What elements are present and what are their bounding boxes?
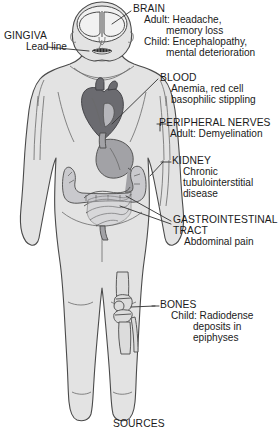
label-gingiva-line-0: Lead line bbox=[4, 41, 67, 52]
label-gastrointestinal-heading2: TRACT bbox=[173, 225, 278, 236]
label-brain-line-1: memory loss bbox=[133, 25, 255, 36]
label-kidney-heading: KIDNEY bbox=[172, 155, 253, 166]
sources-caption: SOURCES bbox=[113, 418, 165, 429]
label-bones-line-2: epiphyses bbox=[160, 332, 254, 343]
label-brain: BRAIN Adult: Headache, memory loss Child… bbox=[133, 3, 255, 58]
label-gingiva-heading: GINGIVA bbox=[4, 30, 67, 41]
label-brain-line-3: mental deterioration bbox=[133, 47, 255, 58]
label-kidney-line-2: disease bbox=[172, 188, 253, 199]
label-brain-line-0: Adult: Headache, bbox=[133, 14, 255, 25]
label-blood: BLOOD Anemia, red cell basophilic stippl… bbox=[160, 72, 256, 105]
label-gastrointestinal-line-0: Abdominal pain bbox=[173, 236, 278, 247]
label-peripheral-nerves: PERIPHERAL NERVES Adult: Demyelination bbox=[159, 117, 271, 139]
label-gastrointestinal: GASTROINTESTINAL TRACT Abdominal pain bbox=[173, 214, 278, 247]
label-bones: BONES Child: Radiodense deposits in epip… bbox=[160, 299, 254, 343]
label-peripheral-nerves-heading: PERIPHERAL NERVES bbox=[159, 117, 271, 128]
label-brain-heading: BRAIN bbox=[133, 3, 255, 14]
label-blood-line-1: basophilic stippling bbox=[160, 94, 256, 105]
label-bones-heading: BONES bbox=[160, 299, 254, 310]
label-gingiva: GINGIVA Lead line bbox=[4, 30, 67, 52]
label-blood-line-0: Anemia, red cell bbox=[160, 83, 256, 94]
label-blood-heading: BLOOD bbox=[160, 72, 256, 83]
label-gastrointestinal-heading: GASTROINTESTINAL bbox=[173, 214, 278, 225]
label-bones-line-1: deposits in bbox=[160, 321, 254, 332]
label-kidney: KIDNEY Chronic tubulointerstitial diseas… bbox=[172, 155, 253, 199]
diagram-canvas: .bodyfill{fill:#e3e3e3;stroke:#4a4a4a;st… bbox=[0, 0, 280, 440]
label-brain-line-2: Child: Encephalopathy, bbox=[133, 36, 255, 47]
label-bones-line-0: Child: Radiodense bbox=[160, 310, 254, 321]
label-kidney-line-1: tubulointerstitial bbox=[172, 177, 253, 188]
label-peripheral-nerves-line-0: Adult: Demyelination bbox=[159, 128, 271, 139]
label-kidney-line-0: Chronic bbox=[172, 166, 253, 177]
